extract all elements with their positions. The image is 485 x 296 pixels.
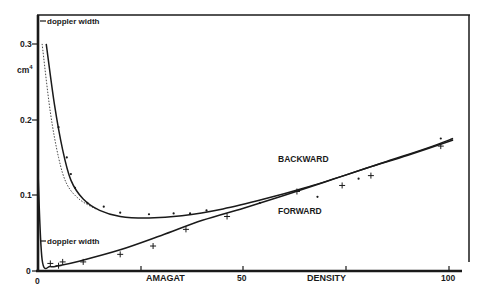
dot-marker-icon <box>103 206 105 208</box>
svg-text:doppler width: doppler width <box>47 17 100 26</box>
x-tick-50: 50 <box>237 273 247 283</box>
data-markers <box>47 126 443 269</box>
dot-marker-icon <box>357 178 359 180</box>
dot-marker-icon <box>205 209 207 211</box>
y-tick-0.3: 0.3 <box>20 39 32 49</box>
dot-marker-icon <box>173 212 175 214</box>
plot-frame <box>36 15 470 272</box>
cross-marker-icon <box>150 243 156 249</box>
dot-marker-icon <box>57 126 59 128</box>
x-axis-label-amagat: AMAGAT <box>146 273 185 283</box>
cross-marker-icon <box>224 213 230 219</box>
series-label-forward: FORWARD <box>278 206 322 216</box>
y-tick-0.2: 0.2 <box>20 115 32 125</box>
dot-marker-icon <box>259 202 261 204</box>
cross-marker-icon <box>47 260 53 266</box>
y-tick-0.1: 0.1 <box>20 190 32 200</box>
dot-marker-icon <box>316 196 318 198</box>
y-tick-0: 0 <box>26 266 31 276</box>
dot-marker-icon <box>119 212 121 214</box>
cross-marker-icon <box>56 263 62 269</box>
data-curves <box>38 44 453 269</box>
y-axis-unit: cm4 <box>17 64 33 75</box>
x-axis-label-density: DENSITY <box>307 273 346 283</box>
series-label-backward: BACKWARD <box>278 154 329 164</box>
chart: 0.3 0.2 0.1 0 0 50 100 cm4 AMAGAT DENSIT… <box>0 0 485 296</box>
x-tick-100: 100 <box>441 273 455 283</box>
dot-marker-icon <box>440 137 442 139</box>
cross-marker-icon <box>339 182 345 188</box>
curve-backward <box>46 44 453 218</box>
dot-marker-icon <box>189 212 191 214</box>
svg-text:doppler width: doppler width <box>47 237 100 246</box>
x-tick-0: 0 <box>35 276 40 286</box>
cross-marker-icon <box>368 173 374 179</box>
cross-marker-icon <box>117 251 123 257</box>
dot-marker-icon <box>70 173 72 175</box>
dot-marker-icon <box>86 202 88 204</box>
dot-marker-icon <box>66 156 68 158</box>
dot-marker-icon <box>148 213 150 215</box>
doppler-width-top-annotation: doppler width <box>40 17 100 26</box>
dot-marker-icon <box>74 187 76 189</box>
doppler-width-bottom-annotation: doppler width <box>40 237 100 246</box>
